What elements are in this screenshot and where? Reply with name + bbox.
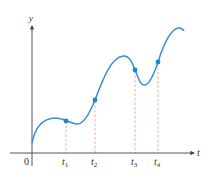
tick-label-t1-sub: 1 — [65, 161, 69, 169]
tick-label-t4-sub: 4 — [157, 161, 161, 169]
function-graph: y t 0 t1 t2 t3 t4 — [0, 0, 210, 178]
y-axis-label: y — [29, 14, 33, 23]
point-t1 — [64, 119, 69, 124]
function-curve — [32, 28, 184, 143]
tick-label-t1: t1 — [62, 157, 68, 169]
marked-points — [64, 60, 161, 124]
tick-label-t2-sub: 2 — [94, 161, 98, 169]
tick-label-t3-sub: 3 — [134, 161, 138, 169]
tick-label-t4: t4 — [154, 157, 160, 169]
dashed-guides — [66, 63, 158, 153]
point-t4 — [156, 60, 161, 65]
tick-label-t3: t3 — [131, 157, 137, 169]
point-t2 — [93, 98, 98, 103]
t-axis-label: t — [197, 148, 200, 158]
point-t3 — [133, 68, 138, 73]
graph-canvas — [0, 0, 210, 178]
tick-label-t2: t2 — [91, 157, 97, 169]
origin-label: 0 — [24, 157, 29, 167]
